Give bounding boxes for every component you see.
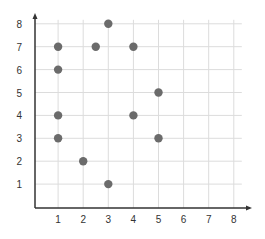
data-point [154, 88, 162, 96]
y-axis-arrow [33, 13, 38, 19]
y-tick-label: 6 [16, 65, 22, 76]
x-tick-label: 5 [156, 214, 162, 225]
y-tick-label: 2 [16, 156, 22, 167]
x-tick-label: 3 [106, 214, 112, 225]
data-point [92, 43, 100, 51]
x-tick-label: 2 [80, 214, 86, 225]
x-tick-label: 4 [131, 214, 137, 225]
data-point [129, 111, 137, 119]
y-tick-label: 4 [16, 110, 22, 121]
scatter-chart: 12345678 12345678 [0, 0, 265, 239]
grid-lines [35, 20, 242, 208]
axes [33, 13, 253, 211]
data-point [154, 134, 162, 142]
y-tick-labels: 12345678 [16, 19, 22, 190]
x-axis-arrow [246, 206, 252, 211]
data-point [54, 111, 62, 119]
data-point [54, 43, 62, 51]
x-tick-label: 1 [55, 214, 61, 225]
y-tick-label: 1 [16, 179, 22, 190]
data-point [104, 180, 112, 188]
x-tick-label: 7 [206, 214, 212, 225]
data-point [129, 43, 137, 51]
data-point [54, 134, 62, 142]
y-tick-label: 8 [16, 19, 22, 30]
x-tick-label: 6 [181, 214, 187, 225]
x-tick-label: 8 [231, 214, 237, 225]
y-tick-label: 5 [16, 88, 22, 99]
x-tick-labels: 12345678 [55, 214, 237, 225]
y-tick-label: 3 [16, 133, 22, 144]
y-tick-label: 7 [16, 42, 22, 53]
data-point [54, 65, 62, 73]
data-point [104, 20, 112, 28]
data-point [79, 157, 87, 165]
